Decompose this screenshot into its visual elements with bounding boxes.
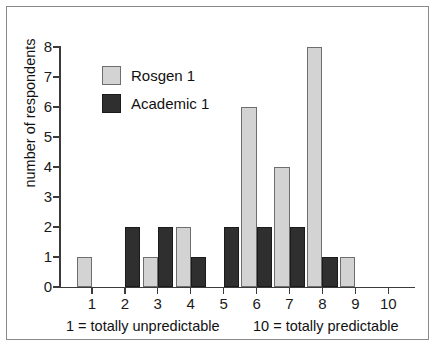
x-tick-label-1: 1 xyxy=(77,296,107,312)
bar-academic-1-5 xyxy=(224,227,239,287)
bar-rosgen-1-9 xyxy=(340,257,355,287)
x-tick-label-2: 2 xyxy=(110,296,140,312)
legend-label-academic-1: Academic 1 xyxy=(131,96,209,111)
x-tick-5 xyxy=(223,287,224,294)
x-tick-label-10: 10 xyxy=(373,296,403,312)
legend-item-rosgen-1: Rosgen 1 xyxy=(102,66,209,85)
x-tick-1 xyxy=(91,287,92,294)
x-tick-label-5: 5 xyxy=(209,296,239,312)
bar-academic-1-8 xyxy=(322,257,337,287)
bar-rosgen-1-4 xyxy=(176,227,191,287)
x-tick-2 xyxy=(124,287,125,294)
x-tick-label-8: 8 xyxy=(307,296,337,312)
x-tick-label-7: 7 xyxy=(275,296,305,312)
x-tick-9 xyxy=(355,287,356,294)
x-tick-label-6: 6 xyxy=(242,296,272,312)
x-tick-3 xyxy=(157,287,158,294)
legend-label-rosgen-1: Rosgen 1 xyxy=(131,68,195,83)
bar-academic-1-7 xyxy=(290,227,305,287)
plot-area: 012345678 12345678910 number of responde… xyxy=(0,0,436,348)
x-tick-7 xyxy=(289,287,290,294)
x-tick-8 xyxy=(322,287,323,294)
caption-max-scale: 10 = totally predictable xyxy=(253,318,399,334)
figure-bar-chart: 012345678 12345678910 number of responde… xyxy=(0,0,436,348)
x-tick-label-9: 9 xyxy=(340,296,370,312)
bar-rosgen-1-3 xyxy=(143,257,158,287)
x-tick-10 xyxy=(388,287,389,294)
bar-rosgen-1-7 xyxy=(274,167,289,287)
bar-academic-1-4 xyxy=(191,257,206,287)
bar-academic-1-3 xyxy=(158,227,173,287)
x-tick-label-4: 4 xyxy=(176,296,206,312)
bar-academic-1-6 xyxy=(257,227,272,287)
legend-swatch-academic-1 xyxy=(102,94,121,113)
bar-rosgen-1-1 xyxy=(77,257,92,287)
bar-academic-1-2 xyxy=(125,227,140,287)
y-axis-title: number of respondents xyxy=(22,13,38,213)
caption-min-scale: 1 = totally unpredictable xyxy=(66,318,220,334)
x-tick-6 xyxy=(256,287,257,294)
x-tick-label-3: 3 xyxy=(143,296,173,312)
bar-rosgen-1-8 xyxy=(307,47,322,287)
legend: Rosgen 1 Academic 1 xyxy=(102,66,209,122)
bars-layer xyxy=(0,47,436,287)
legend-swatch-rosgen-1 xyxy=(102,66,121,85)
legend-item-academic-1: Academic 1 xyxy=(102,94,209,113)
x-tick-4 xyxy=(190,287,191,294)
bar-rosgen-1-6 xyxy=(241,107,256,287)
